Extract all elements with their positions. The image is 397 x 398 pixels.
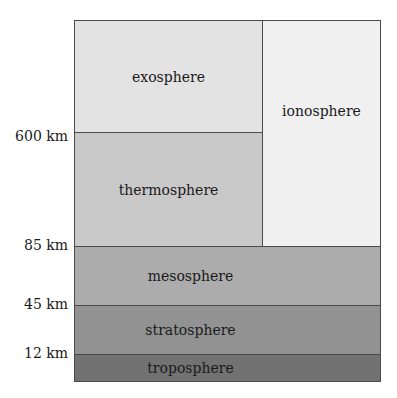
thermosphere-label: thermosphere <box>119 182 219 198</box>
ionosphere-label: ionosphere <box>282 103 361 119</box>
stratosphere-region: stratosphere <box>74 305 381 355</box>
ionosphere-region: ionosphere <box>262 20 381 247</box>
exosphere-label: exosphere <box>132 69 205 85</box>
thermosphere-region: thermosphere <box>74 132 263 247</box>
troposphere-label: troposphere <box>147 360 234 376</box>
mesosphere-region: mesosphere <box>74 246 381 306</box>
altitude-label-45km: 45 km <box>2 296 68 312</box>
altitude-label-85km: 85 km <box>2 237 68 253</box>
altitude-label-12km: 12 km <box>2 345 68 361</box>
troposphere-region: troposphere <box>74 354 381 382</box>
stratosphere-label: stratosphere <box>145 322 235 338</box>
exosphere-region: exosphere <box>74 20 263 133</box>
altitude-label-600km: 600 km <box>2 128 68 144</box>
mesosphere-label: mesosphere <box>148 268 234 284</box>
